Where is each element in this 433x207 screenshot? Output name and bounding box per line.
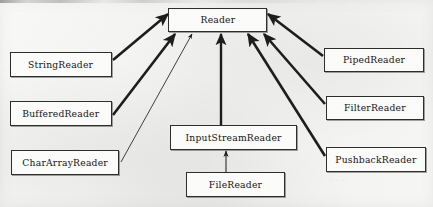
class-box-reader[interactable]: Reader [168,8,267,32]
class-name-reader: Reader [200,15,235,25]
class-name-filter-reader: FilterReader [344,103,406,113]
class-name-char-array-reader: CharArrayReader [22,158,108,168]
class-box-input-stream-reader[interactable]: InputStreamReader [170,125,297,150]
class-box-string-reader[interactable]: StringReader [10,52,112,77]
class-name-piped-reader: PipedReader [343,55,405,65]
class-box-buffered-reader[interactable]: BufferedReader [10,101,112,126]
class-box-pushback-reader[interactable]: PushbackReader [326,147,426,172]
class-name-file-reader: FileReader [209,180,262,190]
class-box-filter-reader[interactable]: FilterReader [326,96,424,120]
class-name-input-stream-reader: InputStreamReader [185,133,281,143]
class-box-char-array-reader[interactable]: CharArrayReader [11,150,119,175]
class-name-string-reader: StringReader [28,60,93,70]
class-name-pushback-reader: PushbackReader [335,155,416,165]
edge-buffered-reader [113,34,175,115]
edge-filter-reader [264,34,325,104]
class-box-piped-reader[interactable]: PipedReader [324,48,424,72]
class-name-buffered-reader: BufferedReader [22,109,99,119]
class-box-file-reader[interactable]: FileReader [186,172,285,197]
uml-class-diagram: · · · · · · · · · Reader [0,0,433,207]
